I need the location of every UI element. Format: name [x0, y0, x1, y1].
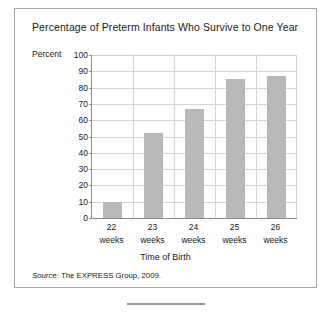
x-axis-tick-label: 26weeks	[255, 221, 296, 246]
x-axis-tick-labels: 22weeks23weeks24weeks25weeks26weeks	[91, 221, 313, 255]
y-axis-tick-label: 10	[79, 197, 88, 207]
y-axis-tick-mark	[89, 120, 92, 121]
y-axis-tick-mark	[89, 137, 92, 138]
y-axis-tick-mark	[89, 104, 92, 105]
bottom-rule-mark	[127, 303, 205, 305]
chart-figure-frame: Percentage of Preterm Infants Who Surviv…	[14, 8, 317, 288]
x-tick-unit: weeks	[255, 234, 296, 247]
y-axis-tick-label: 40	[79, 148, 88, 158]
x-tick-number: 25	[214, 221, 255, 234]
y-axis-tick-mark	[89, 71, 92, 72]
y-axis-tick-label: 60	[79, 115, 88, 125]
plot-wrapper: 1009080706050403020100	[75, 52, 297, 219]
y-axis-tick-mark	[89, 185, 92, 186]
chart-title: Percentage of Preterm Infants Who Surviv…	[32, 21, 298, 33]
x-tick-number: 26	[255, 221, 296, 234]
x-axis-tick-label: 24weeks	[173, 221, 214, 246]
y-axis-tick-mark	[89, 55, 92, 56]
y-axis-title: Percent	[32, 49, 61, 59]
y-axis-tick-label: 30	[79, 164, 88, 174]
x-axis-tick-label: 23weeks	[132, 221, 173, 246]
plot-area: 1009080706050403020100	[91, 55, 297, 219]
y-axis-tick-mark	[89, 88, 92, 89]
y-axis-tick-label: 90	[79, 66, 88, 76]
x-tick-unit: weeks	[91, 234, 132, 247]
y-axis-tick-mark	[89, 202, 92, 203]
bar-series	[92, 55, 297, 218]
y-axis-tick-mark	[89, 153, 92, 154]
y-axis-tick-label: 70	[79, 99, 88, 109]
x-tick-number: 22	[91, 221, 132, 234]
y-axis-tick-label: 50	[79, 132, 88, 142]
bar	[144, 133, 163, 218]
x-tick-number: 24	[173, 221, 214, 234]
y-axis-tick-mark	[89, 169, 92, 170]
bar	[267, 76, 286, 218]
bar	[185, 109, 204, 218]
source-text: The EXPRESS Group, 2009.	[61, 271, 161, 280]
source-label: Source:	[32, 271, 59, 280]
x-tick-unit: weeks	[173, 234, 214, 247]
bar	[226, 79, 245, 218]
x-axis-tick-label: 25weeks	[214, 221, 255, 246]
x-axis-title: Time of Birth	[15, 252, 316, 262]
y-axis-tick-mark	[89, 218, 92, 219]
y-axis-tick-label: 20	[79, 180, 88, 190]
x-axis-tick-label: 22weeks	[91, 221, 132, 246]
x-tick-number: 23	[132, 221, 173, 234]
y-axis-tick-label: 100	[74, 50, 88, 60]
y-axis-tick-label: 80	[79, 83, 88, 93]
x-tick-unit: weeks	[214, 234, 255, 247]
x-tick-unit: weeks	[132, 234, 173, 247]
bar	[103, 202, 122, 218]
y-axis-tick-label: 0	[83, 213, 88, 223]
source-note: Source: The EXPRESS Group, 2009.	[32, 271, 161, 280]
